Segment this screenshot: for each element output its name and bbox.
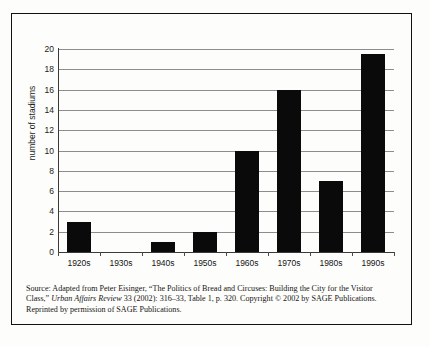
gridline: [58, 232, 394, 233]
x-axis-tick: [310, 252, 311, 256]
y-axis-tick-label: 0: [32, 248, 54, 257]
figure-page: 20181614121086420 number of stadiums 192…: [0, 0, 430, 347]
bar-1940s: [151, 242, 175, 252]
gridline: [58, 49, 394, 50]
gridline: [58, 171, 394, 172]
bar-1980s: [319, 181, 343, 252]
x-axis-tick: [352, 252, 353, 256]
x-axis-tick-label-1930s: 1930s: [100, 259, 142, 268]
gridline: [58, 191, 394, 192]
figure-border-box: 20181614121086420 number of stadiums 192…: [11, 13, 412, 325]
y-axis-tick-label: 4: [32, 207, 54, 216]
gridline: [58, 211, 394, 212]
y-axis-line: [58, 48, 59, 253]
caption-line-3: Reprinted by permission of SAGE Publicat…: [26, 305, 401, 315]
x-axis-tick: [100, 252, 101, 256]
x-axis-tick-label-1940s: 1940s: [142, 259, 184, 268]
y-axis-title: number of stadiums: [27, 43, 37, 203]
bar-chart: 20181614121086420 number of stadiums 192…: [12, 14, 413, 268]
x-axis-tick: [58, 252, 59, 256]
bar-1950s: [193, 232, 217, 252]
x-axis-tick-label-1950s: 1950s: [184, 259, 226, 268]
x-axis-tick-label-1960s: 1960s: [226, 259, 268, 268]
caption-line-2: Class,” Urban Affairs Review 33 (2002): …: [26, 294, 401, 304]
x-axis-tick: [394, 252, 395, 256]
source-caption: Source: Adapted from Peter Eisinger, “Th…: [26, 284, 401, 315]
x-axis-tick: [226, 252, 227, 256]
gridline: [58, 69, 394, 70]
x-axis-tick: [184, 252, 185, 256]
x-axis-tick-label-1980s: 1980s: [310, 259, 352, 268]
caption-line-2-part-a: Class,”: [26, 294, 51, 303]
y-axis-tick-label: 2: [32, 228, 54, 237]
x-axis-tick-label-1920s: 1920s: [58, 259, 100, 268]
x-axis-tick-label-1990s: 1990s: [352, 259, 394, 268]
x-axis-tick-label-1970s: 1970s: [268, 259, 310, 268]
gridline: [58, 110, 394, 111]
caption-line-2-part-b: 33 (2002): 316–33, Table 1, p. 320. Copy…: [122, 294, 377, 303]
x-axis-tick: [142, 252, 143, 256]
x-axis-tick: [268, 252, 269, 256]
bar-1960s: [235, 151, 259, 253]
gridline: [58, 151, 394, 152]
plot-area: [58, 49, 394, 252]
gridline: [58, 90, 394, 91]
bar-1970s: [277, 90, 301, 252]
caption-line-1: Source: Adapted from Peter Eisinger, “Th…: [26, 284, 401, 294]
bar-1920s: [67, 222, 91, 252]
caption-journal-title: Urban Affairs Review: [51, 294, 121, 303]
gridline: [58, 130, 394, 131]
bar-1990s: [361, 54, 385, 252]
